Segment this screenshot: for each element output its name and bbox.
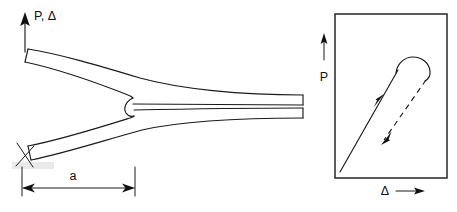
upper-arm-inner-edge [25,62,133,98]
load-displacement-plot: P Δ [320,14,447,198]
lower-arm-left-end [28,146,31,160]
crack-tip [125,98,134,116]
figure-canvas: P, Δ a P [0,0,457,212]
upper-arm-top-edge [28,49,303,95]
figure-root: P, Δ a P [0,0,457,212]
delta-axis-label: Δ [381,184,389,198]
p-axis-indicator [321,33,328,60]
dcb-specimen: P, Δ a [12,9,303,196]
load-arrow [20,12,30,52]
p-axis-label: P [320,70,328,84]
crack-length-dimension: a [22,167,135,196]
crack-length-label: a [70,169,77,183]
lower-arm-inner-edge [28,116,134,146]
ligament-upper-line [133,104,303,105]
delta-axis-indicator [396,188,425,195]
lower-arm-bottom-edge [31,118,303,160]
load-label: P, Δ [34,9,56,23]
ligament-lower-line [134,108,303,110]
plot-frame [335,14,447,178]
